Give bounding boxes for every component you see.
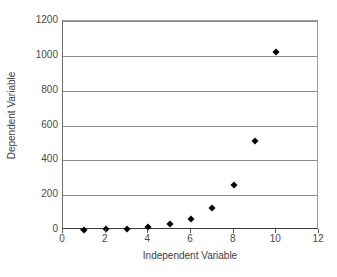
data-point-marker	[102, 226, 109, 233]
plot-area	[62, 20, 318, 229]
gridline-horizontal	[63, 56, 317, 57]
y-axis-tick-label: 800	[26, 85, 58, 95]
x-axis-tick-label: 12	[306, 233, 330, 244]
data-point-marker	[145, 224, 152, 231]
data-point-marker	[81, 226, 88, 233]
scatter-chart-figure: Dependent Variable 020040060080010001200…	[0, 0, 337, 277]
x-axis-title: Independent Variable	[62, 250, 318, 261]
data-point-marker	[251, 137, 258, 144]
y-axis-tick-label: 1000	[26, 50, 58, 60]
y-axis-tick-label: 1200	[26, 15, 58, 25]
data-point-marker	[209, 204, 216, 211]
x-axis-tick-label: 2	[93, 233, 117, 244]
data-point-marker	[187, 215, 194, 222]
y-axis-tick-label: 200	[26, 189, 58, 199]
x-axis-tick-label: 4	[135, 233, 159, 244]
x-axis-tick-mark	[275, 229, 276, 233]
y-axis-title: Dependent Variable	[6, 41, 17, 191]
x-axis-tick-mark	[233, 229, 234, 233]
x-axis-tick-mark	[190, 229, 191, 233]
gridline-horizontal	[63, 160, 317, 161]
data-point-marker	[123, 225, 130, 232]
x-axis-tick-mark	[318, 229, 319, 233]
x-axis-tick-label: 6	[178, 233, 202, 244]
data-point-marker	[273, 48, 280, 55]
gridline-horizontal	[63, 91, 317, 92]
x-axis-tick-mark	[105, 229, 106, 233]
x-axis-tick-label: 0	[50, 233, 74, 244]
y-axis-tick-label: 600	[26, 120, 58, 130]
data-point-marker	[166, 221, 173, 228]
data-point-marker	[230, 182, 237, 189]
gridline-horizontal	[63, 195, 317, 196]
gridline-horizontal	[63, 21, 317, 22]
y-axis-tick-label: 400	[26, 154, 58, 164]
x-axis-tick-mark	[147, 229, 148, 233]
x-axis-tick-label: 8	[221, 233, 245, 244]
x-axis-tick-label: 10	[263, 233, 287, 244]
x-axis-tick-mark	[62, 229, 63, 233]
gridline-horizontal	[63, 126, 317, 127]
